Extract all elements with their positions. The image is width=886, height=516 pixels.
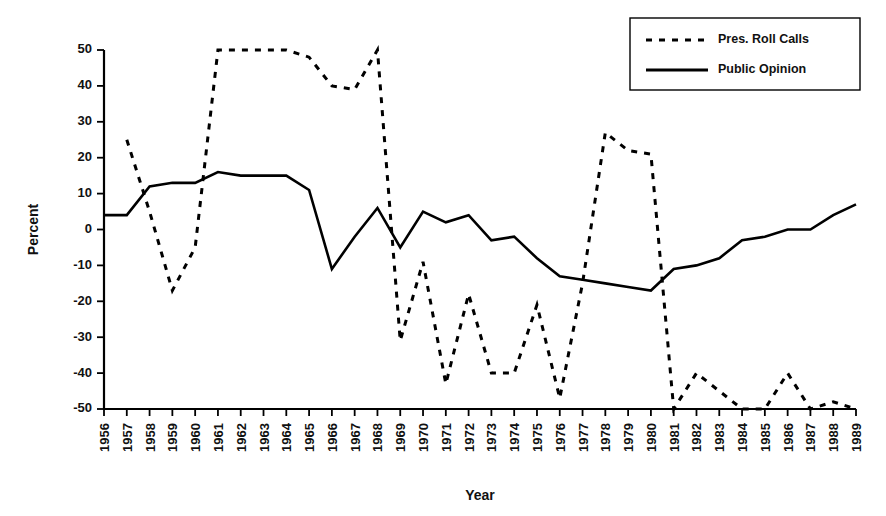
x-tick-label: 1956 — [97, 423, 112, 452]
y-tick-label: 20 — [78, 149, 92, 164]
x-tick-label: 1971 — [439, 423, 454, 452]
x-tick-label: 1969 — [393, 423, 408, 452]
y-tick-label: -10 — [73, 257, 92, 272]
x-tick-label: 1958 — [143, 423, 158, 452]
x-tick-label: 1987 — [803, 423, 818, 452]
y-tick-label: -50 — [73, 400, 92, 415]
x-tick-label: 1986 — [781, 423, 796, 452]
x-tick-label: 1984 — [735, 422, 750, 452]
x-tick-label: 1975 — [530, 423, 545, 452]
x-tick-label: 1978 — [598, 423, 613, 452]
x-tick-label: 1988 — [826, 423, 841, 452]
x-tick-label: 1980 — [644, 423, 659, 452]
x-tick-label: 1962 — [234, 423, 249, 452]
y-tick-label: -30 — [73, 329, 92, 344]
x-tick-label: 1965 — [302, 423, 317, 452]
x-tick-label: 1966 — [325, 423, 340, 452]
x-tick-label: 1961 — [211, 423, 226, 452]
x-tick-label: 1960 — [188, 423, 203, 452]
x-tick-label: 1989 — [849, 423, 864, 452]
y-tick-label: -40 — [73, 365, 92, 380]
y-tick-label: 50 — [78, 41, 92, 56]
x-tick-label: 1977 — [576, 423, 591, 452]
x-tick-label: 1959 — [165, 423, 180, 452]
x-tick-label: 1974 — [507, 422, 522, 452]
y-tick-label: 10 — [78, 185, 92, 200]
legend-label: Pres. Roll Calls — [718, 32, 809, 46]
x-tick-label: 1982 — [689, 423, 704, 452]
y-tick-label: -20 — [73, 293, 92, 308]
chart-container: 50403020100-10-20-30-40-5019561957195819… — [0, 0, 886, 516]
y-tick-label: 0 — [85, 221, 92, 236]
line-chart: 50403020100-10-20-30-40-5019561957195819… — [0, 0, 886, 516]
x-tick-label: 1957 — [120, 423, 135, 452]
x-tick-label: 1964 — [279, 422, 294, 452]
x-tick-label: 1970 — [416, 423, 431, 452]
x-tick-label: 1976 — [553, 423, 568, 452]
x-tick-label: 1963 — [257, 423, 272, 452]
x-axis-title: Year — [465, 487, 495, 503]
y-axis-title: Percent — [25, 203, 41, 255]
series-solid — [104, 172, 856, 290]
x-tick-label: 1972 — [462, 423, 477, 452]
y-tick-label: 40 — [78, 77, 92, 92]
legend-label: Public Opinion — [718, 62, 806, 76]
legend-box — [630, 18, 860, 90]
x-tick-label: 1968 — [370, 423, 385, 452]
x-tick-label: 1981 — [667, 423, 682, 452]
y-tick-label: 30 — [78, 113, 92, 128]
x-tick-label: 1983 — [712, 423, 727, 452]
series-dashed — [127, 50, 856, 409]
x-tick-label: 1967 — [348, 423, 363, 452]
x-tick-label: 1973 — [484, 423, 499, 452]
x-tick-label: 1985 — [758, 423, 773, 452]
x-tick-label: 1979 — [621, 423, 636, 452]
